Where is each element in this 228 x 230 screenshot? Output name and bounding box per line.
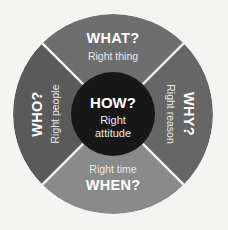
segment-what-heading: WHAT? [87, 30, 140, 46]
wheel-diagram: WHAT? Right thing WHY? Right reason Righ… [0, 0, 228, 230]
segment-when-subtitle: Right time [89, 163, 136, 175]
segment-why-subtitle: Right reason [165, 84, 177, 144]
segment-who-heading: WHO? [29, 91, 45, 137]
hub-subtitle-line-1: Right [100, 114, 126, 126]
segment-when-labels: Right time WHEN? [86, 163, 141, 193]
segment-who-subtitle: Right people [49, 84, 61, 143]
segment-what-subtitle: Right thing [88, 50, 138, 62]
hub-subtitle-line-2: attitude [95, 127, 131, 139]
segment-why-heading: WHY? [181, 92, 197, 136]
segment-when-heading: WHEN? [86, 177, 141, 193]
hub-heading: HOW? [90, 94, 136, 111]
wheel-svg: WHAT? Right thing WHY? Right reason Righ… [0, 0, 228, 230]
